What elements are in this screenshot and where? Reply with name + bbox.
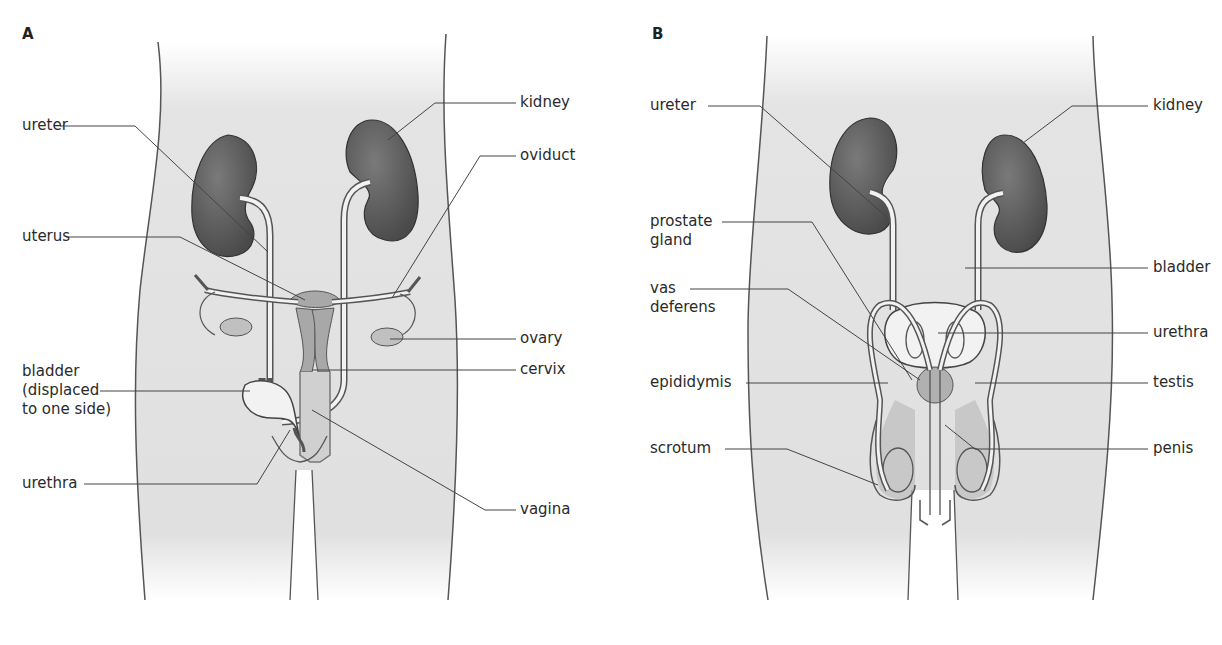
label-uterus: uterus (22, 227, 70, 246)
panel-label-a: A (22, 25, 34, 43)
label-epididymis: epididymis (650, 373, 732, 392)
label-oviduct: oviduct (520, 146, 575, 165)
label-vagina: vagina (520, 500, 570, 519)
label-vas-deferens: vas deferens (650, 279, 716, 317)
label-prostate-gland: prostate gland (650, 212, 713, 250)
label-bladder-b: bladder (1153, 258, 1210, 277)
label-penis: penis (1153, 439, 1193, 458)
label-scrotum: scrotum (650, 439, 711, 458)
label-ureter-b: ureter (650, 96, 696, 115)
panel-label-b: B (652, 25, 663, 43)
label-kidney-a: kidney (520, 93, 570, 112)
label-urethra-a: urethra (22, 474, 77, 493)
label-ureter-a: ureter (22, 116, 68, 135)
label-kidney-b: kidney (1153, 96, 1203, 115)
diagram-canvas (0, 0, 1222, 645)
label-ovary: ovary (520, 329, 562, 348)
label-urethra-b: urethra (1153, 323, 1208, 342)
label-cervix: cervix (520, 360, 566, 379)
label-bladder-a: bladder (displaced to one side) (22, 362, 111, 419)
panel-a-body (135, 34, 457, 600)
label-testis: testis (1153, 373, 1194, 392)
